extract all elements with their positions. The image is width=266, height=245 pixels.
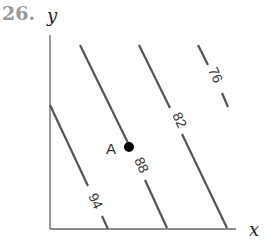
x-axis-label: x: [249, 219, 259, 240]
point-a: [124, 142, 134, 152]
contour-label-82: 82: [169, 110, 190, 131]
contour-label-76: 76: [205, 65, 226, 86]
point-a-label: A: [106, 140, 116, 157]
contour-94: 94: [50, 105, 108, 229]
contour-76: 76: [198, 45, 228, 107]
contour-diagram: y x 94 88 82 76 A: [0, 0, 266, 245]
contour-label-88: 88: [131, 155, 152, 176]
y-axis-label: y: [46, 5, 58, 26]
contour-label-94: 94: [85, 191, 106, 212]
